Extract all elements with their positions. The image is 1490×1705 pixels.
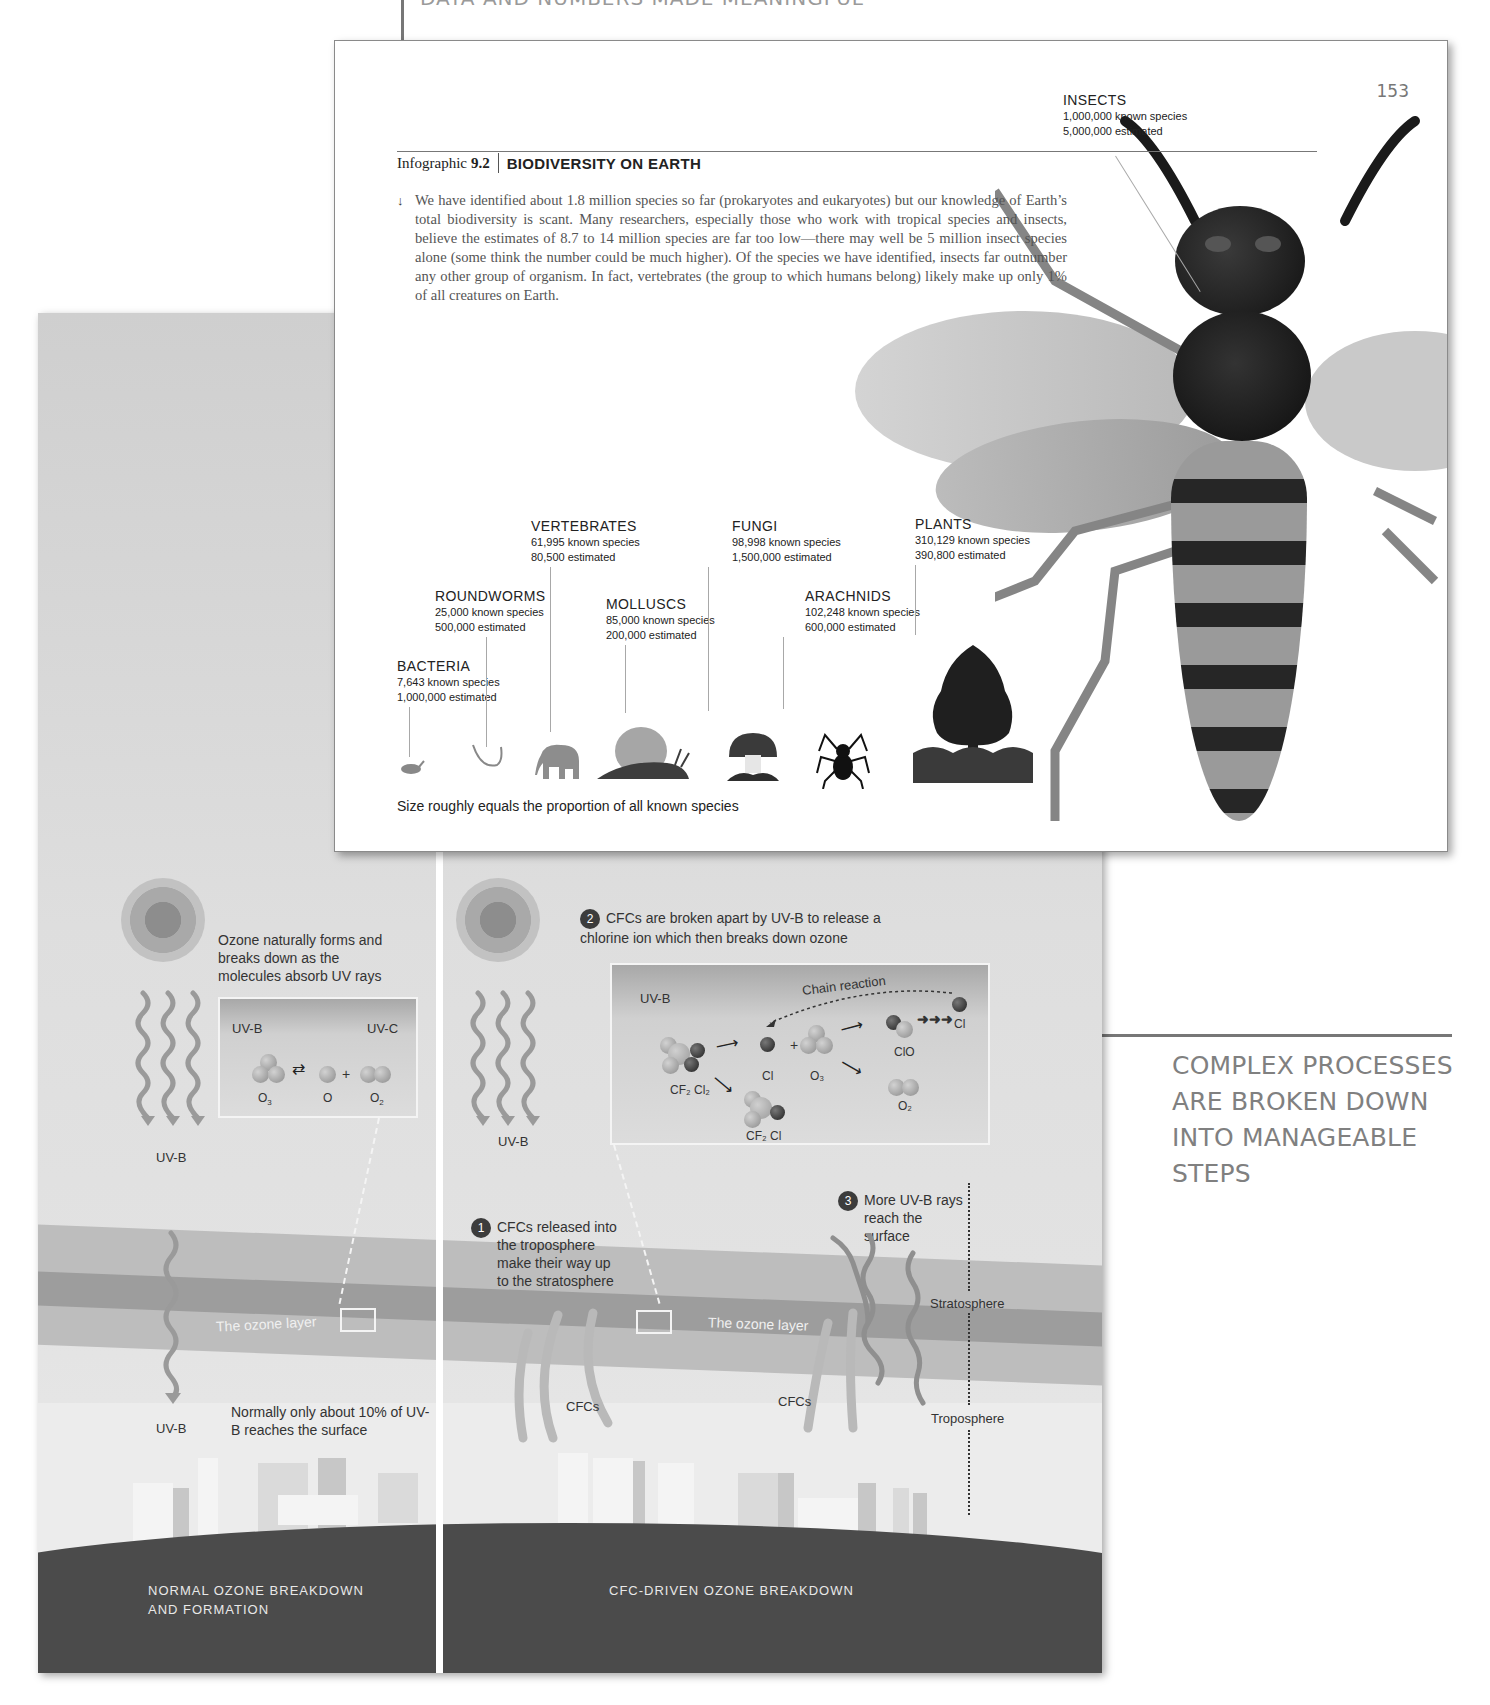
biodiversity-infographic-page: 153 Infographic 9.2 BIODIVERSITY ON EART… [334,40,1448,852]
page-number: 153 [1377,81,1409,101]
callout-top-text: DATA AND NUMBERS MADE MEANINGFUL [420,0,980,8]
tree-icon [913,641,1033,783]
group-label-vertebrates: VERTEBRATES 61,995 known species 80,500 … [531,517,640,565]
insect-head [1175,206,1305,316]
zoom-region-marker [636,1310,672,1334]
elephant-icon [535,741,583,781]
uv-rays-icon [468,988,558,1128]
header-rule [397,151,1317,152]
bacteria-icon [399,755,425,777]
oxygen-atom [374,1066,391,1083]
group-label-bacteria: BACTERIA 7,643 known species 1,000,000 e… [397,657,500,705]
stratosphere-label: Stratosphere [930,1295,1004,1313]
building [893,1488,909,1538]
infographic-header: Infographic 9.2 BIODIVERSITY ON EARTH [397,153,701,173]
building [198,1458,218,1538]
uv-rays-penetrating-icon [828,1233,928,1433]
infographic-title: BIODIVERSITY ON EARTH [507,155,701,172]
left-section-title: NORMAL OZONE BREAKDOWN AND FORMATION [148,1581,364,1619]
oxygen-atom [268,1066,285,1083]
group-label-roundworms: ROUNDWORMS 25,000 known species 500,000 … [435,587,546,635]
sun-icon [121,878,205,962]
worm-icon [471,741,505,771]
cfc-reaction-box: UV-B Chain reaction CF₂ Cl₂ ⟶ ⟶ Cl + O₃ … [610,963,990,1145]
group-label-molluscs: MOLLUSCS 85,000 known species 200,000 es… [606,595,715,643]
sun-icon [456,878,540,962]
surface-note: Normally only about 10% of UV-B reaches … [231,1403,431,1439]
group-label-insects: INSECTS 1,000,000 known species 5,000,00… [1063,91,1187,139]
step-2-text: 2CFCs are broken apart by UV-B to releas… [580,909,910,947]
group-label-fungi: FUNGI 98,998 known species 1,500,000 est… [732,517,841,565]
step-2-badge: 2 [580,909,600,929]
spider-icon [815,731,871,789]
building [738,1473,778,1528]
callout-right-text: COMPLEX PROCESSES ARE BROKEN DOWN INTO M… [1172,1048,1462,1192]
insect-thorax [1173,311,1311,441]
chlorine-atom [690,1043,705,1058]
building [633,1461,645,1531]
chlorine-atom [684,1057,699,1072]
troposphere-label: Troposphere [931,1410,1004,1428]
building [593,1458,633,1533]
troposphere-range-indicator [968,1430,970,1515]
left-reaction-box: UV-B UV-C ⇄ + O3 O O2 [218,997,418,1118]
building [658,1463,694,1528]
step-1-badge: 1 [471,1218,491,1238]
building [378,1473,418,1523]
down-arrow-icon: ↓ [397,193,404,208]
zoom-region-marker [340,1308,376,1332]
building [558,1453,588,1533]
oxygen-atom [252,1066,269,1083]
group-label-arachnids: ARACHNIDS 102,248 known species 600,000 … [805,587,920,635]
insect-eye [1205,236,1231,252]
building [778,1473,794,1528]
building [278,1495,358,1525]
snail-icon [597,723,693,781]
left-intro-text: Ozone naturally forms and breaks down as… [218,931,393,985]
oxygen-atom [319,1066,336,1083]
stratosphere-range-indicator [968,1183,970,1291]
uvb-label: UV-B [156,1149,186,1167]
insect-eye [1255,236,1281,252]
building [173,1488,189,1543]
building [133,1483,173,1543]
cfcs-label: CFCs [566,1398,599,1416]
size-caption: Size roughly equals the proportion of al… [397,798,739,814]
cfcs-label: CFCs [778,1393,811,1411]
step-1-text: 1CFCs released into the troposphere make… [471,1218,631,1290]
step-3-badge: 3 [838,1191,858,1211]
uv-ray-icon [153,1228,193,1408]
mushroom-icon [725,731,781,783]
cfc-rising-arrows-icon [508,1303,628,1443]
right-section-title: CFC-DRIVEN OZONE BREAKDOWN [609,1581,854,1600]
group-label-plants: PLANTS 310,129 known species 390,800 est… [915,515,1030,563]
uv-rays-icon [133,988,223,1128]
intro-paragraph: We have identified about 1.8 million spe… [415,191,1067,305]
